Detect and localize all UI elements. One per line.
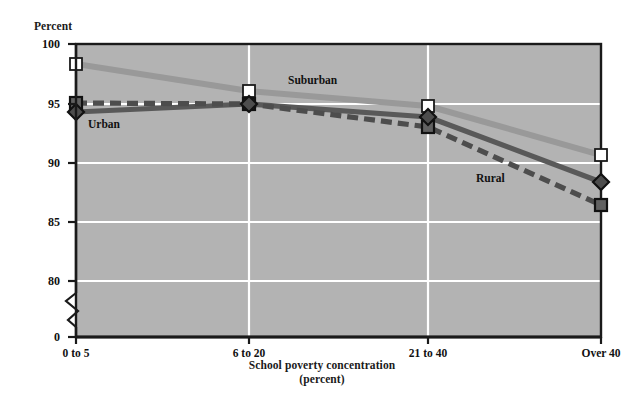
x-axis-title: School poverty concentration (percent): [0, 358, 644, 386]
y-tick-label-100: 100: [20, 37, 60, 52]
chart-plot-area: [0, 0, 644, 407]
y-tick-label-0: 0: [20, 330, 60, 345]
plot-background: [76, 44, 601, 337]
y-tick-label-80: 80: [20, 274, 60, 289]
chart-figure: Percent: [0, 0, 644, 407]
series-label-suburban: Suburban: [288, 74, 337, 86]
series-label-urban: Urban: [88, 118, 120, 130]
y-tick-label-90: 90: [20, 156, 60, 171]
x-axis-title-line1: School poverty concentration: [249, 359, 396, 371]
series-label-rural: Rural: [476, 172, 505, 184]
y-tick-label-95: 95: [20, 97, 60, 112]
y-axis-title: Percent: [34, 20, 72, 32]
y-tick-label-85: 85: [20, 215, 60, 230]
x-axis-title-line2: (percent): [0, 372, 644, 386]
